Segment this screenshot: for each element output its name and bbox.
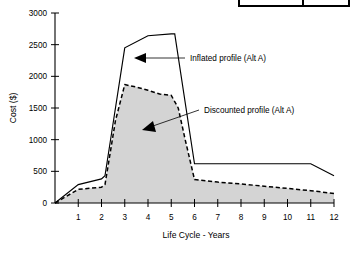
y-axis: 050010001500200025003000 Cost ($) [8,9,59,208]
x-tick-label: 1 [76,213,81,222]
annotation-inflated: Inflated profile (Alt A) [134,53,266,63]
y-tick-label: 500 [33,167,47,176]
inflated-arrowhead [134,53,146,63]
y-tick-label: 1000 [29,136,48,145]
x-tick-label: 8 [239,213,244,222]
x-tick-label: 6 [192,213,197,222]
discounted-annotation-label: Discounted profile (Alt A) [204,106,294,115]
x-tick-label: 10 [283,213,293,222]
y-tick-label: 3000 [29,9,48,18]
y-tick-label: 0 [42,199,47,208]
y-tick-label: 2500 [29,41,48,50]
x-tick-label: 5 [169,213,174,222]
y-tick-label: 1500 [29,104,48,113]
x-tick-label: 4 [146,213,151,222]
x-tick-label: 11 [307,213,316,222]
y-tick-label: 2000 [29,72,48,81]
x-axis: 123456789101112 Life Cycle - Years [55,199,339,240]
x-tick-label: 7 [215,213,220,222]
x-tick-label: 9 [262,213,267,222]
x-tick-label: 2 [99,213,104,222]
y-axis-title: Cost ($) [8,93,18,124]
x-tick-label: 12 [329,213,339,222]
discounted-area-fill [55,85,334,203]
inflated-annotation-label: Inflated profile (Alt A) [190,54,266,63]
x-axis-title: Life Cycle - Years [163,230,230,240]
x-tick-label: 3 [122,213,127,222]
